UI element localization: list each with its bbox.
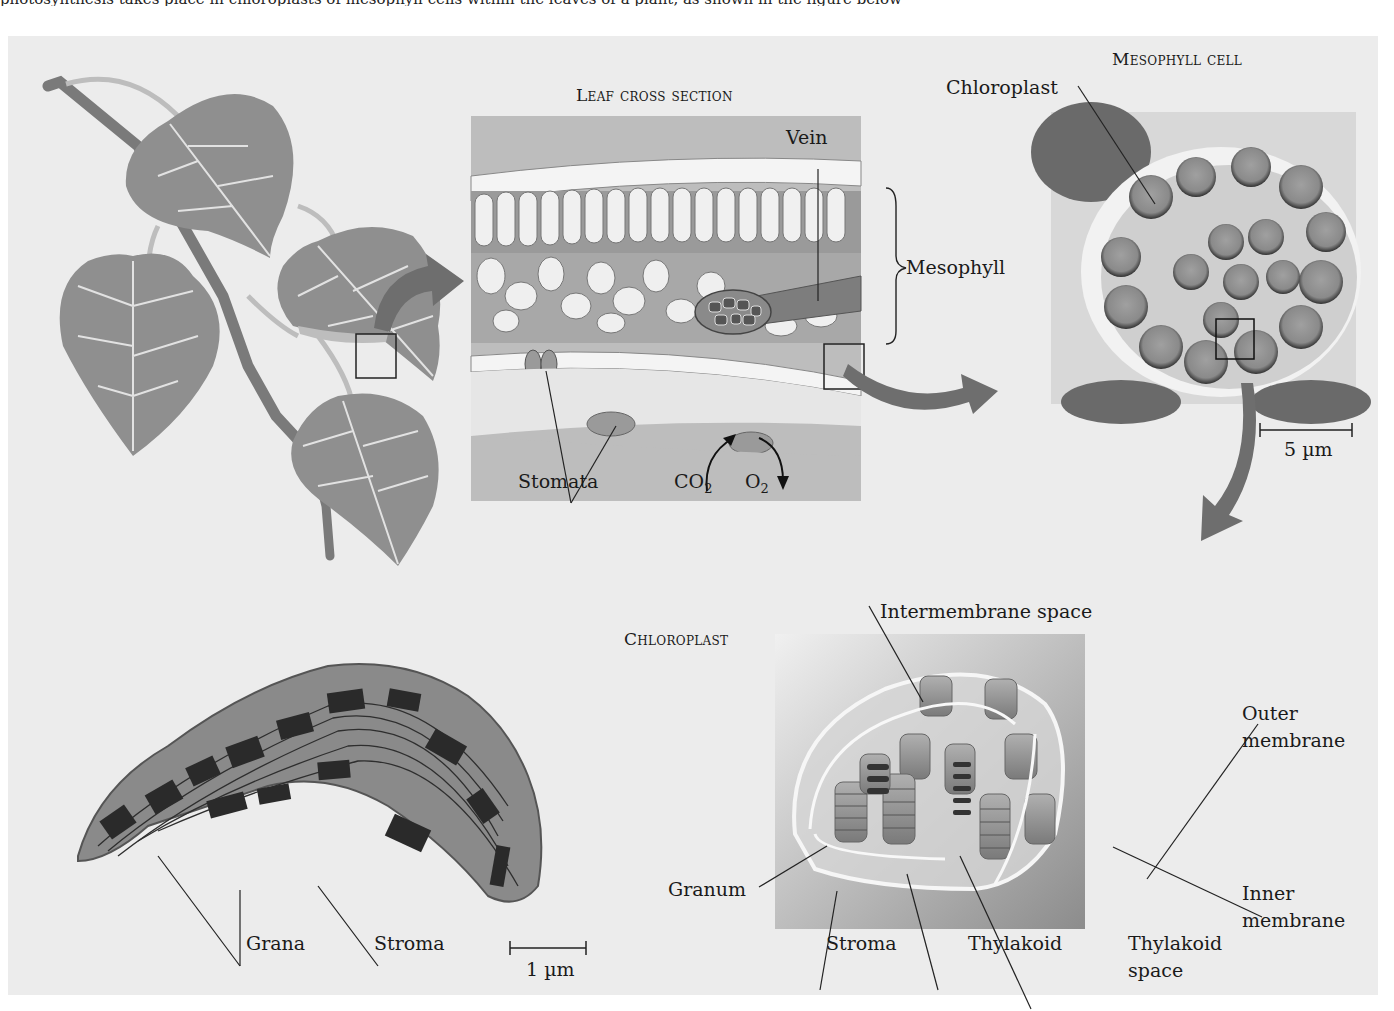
chloroplast-diagram	[775, 634, 1095, 934]
label-chloroplast: Chloroplast	[946, 76, 1058, 98]
label-outer-membrane-line2: membrane	[1242, 729, 1345, 751]
label-inner-membrane-line1: Inner	[1242, 882, 1294, 904]
leaf-middle-right	[277, 227, 440, 381]
arrow-to-mesophyll-cell-icon	[843, 336, 1023, 426]
arrow-to-chloroplast-icon	[1173, 381, 1293, 551]
label-stroma-micrograph: Stroma	[374, 932, 445, 954]
leaf-top	[126, 94, 294, 258]
mesophyll-cell-title: Mesophyll cell	[1112, 48, 1242, 70]
chloroplast-title: Chloroplast	[624, 628, 728, 650]
leaf-cross-section-title: Leaf cross section	[576, 84, 733, 106]
label-intermembrane-space: Intermembrane space	[880, 600, 1092, 622]
label-o2: O2	[745, 470, 769, 492]
scale-label-1um: 1 µm	[526, 958, 575, 980]
label-thylakoid: Thylakoid	[968, 932, 1062, 954]
label-vein: Vein	[786, 126, 828, 148]
leaf-bottom	[291, 394, 438, 567]
leaf-cross-section-illustration	[471, 116, 871, 506]
label-outer-membrane-line1: Outer	[1242, 702, 1298, 724]
scale-bar-1um	[508, 940, 598, 960]
label-mesophyll: Mesophyll	[906, 256, 1005, 278]
leaf-branch-illustration	[8, 36, 468, 596]
label-inner-membrane-line2: membrane	[1242, 909, 1345, 931]
clipped-caption-text: photosynthesis takes place in chloroplas…	[0, 0, 1394, 6]
label-thylakoid-space-line2: space	[1128, 959, 1183, 981]
figure-panel: Leaf cross section	[8, 36, 1378, 995]
chloroplast-leader-line	[1078, 86, 1218, 176]
label-thylakoid-space-line1: Thylakoid	[1128, 932, 1222, 954]
label-stomata: Stomata	[518, 470, 598, 492]
label-stroma-diagram: Stroma	[826, 932, 897, 954]
label-co2: CO2	[674, 470, 712, 492]
label-granum: Granum	[668, 878, 746, 900]
label-grana: Grana	[246, 932, 305, 954]
leaf-left	[60, 254, 220, 457]
